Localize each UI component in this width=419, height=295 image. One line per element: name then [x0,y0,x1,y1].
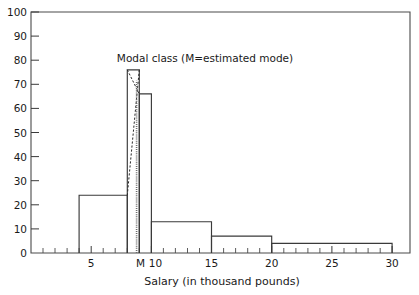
x-axis-label-20: 20 [265,257,278,269]
x-axis-labels: 5 10 15 20 25 30 M [88,257,399,269]
x-axis-label-25: 25 [325,257,338,269]
y-axis-ticks [31,12,39,229]
annotation-group: Modal class (M=estimated mode) [117,52,293,64]
bar-10-15 [151,222,211,253]
frame-rect [31,12,410,253]
x-axis-label-5: 5 [88,257,95,269]
y-axis-label-50: 50 [14,127,27,139]
bar-4-8 [79,195,127,253]
y-axis-label-70: 70 [14,78,27,90]
x-axis-label-15: 15 [205,257,218,269]
bar-9-10 [139,94,151,253]
y-axis-label-20: 20 [14,199,27,211]
y-axis-label-90: 90 [14,30,27,42]
histogram-bars [79,70,392,253]
y-axis-label-80: 80 [14,54,27,66]
x-axis-label-30: 30 [385,257,398,269]
y-axis-label-0: 0 [20,247,27,259]
x-axis-label-mode: M [136,257,145,269]
chart-canvas: 100 90 80 70 60 50 40 30 20 10 0 [0,0,419,295]
y-axis-label-30: 30 [14,175,27,187]
plot-frame [31,12,410,253]
mode-construction [127,70,139,253]
y-axis-label-100: 100 [7,6,27,18]
modal-class-annotation: Modal class (M=estimated mode) [117,52,293,64]
y-axis-labels: 100 90 80 70 60 50 40 30 20 10 0 [7,6,27,259]
x-axis-label-10: 10 [149,257,162,269]
histogram-chart: 100 90 80 70 60 50 40 30 20 10 0 [0,0,419,295]
x-axis-major-ticks [91,246,392,253]
mode-dash-right [127,70,139,195]
y-axis-label-40: 40 [14,151,27,163]
bar-15-20 [212,236,272,253]
bar-8-9-modal [127,70,139,253]
y-axis-label-60: 60 [14,102,27,114]
x-axis-title: Salary (in thousand pounds) [144,275,299,288]
y-axis-label-10: 10 [14,223,27,235]
